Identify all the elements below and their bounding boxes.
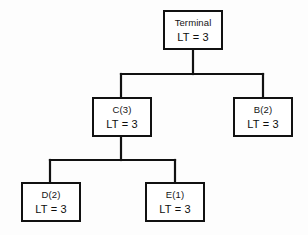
- node-b-lt: LT = 3: [247, 117, 279, 131]
- node-terminal-lt: LT = 3: [177, 30, 209, 44]
- node-d: D(2) LT = 3: [21, 182, 81, 222]
- node-e-lt: LT = 3: [159, 202, 191, 216]
- node-e: E(1) LT = 3: [145, 182, 205, 222]
- node-e-title: E(1): [166, 189, 184, 201]
- node-b-title: B(2): [254, 104, 272, 116]
- node-b: B(2) LT = 3: [233, 97, 293, 137]
- node-c-title: C(3): [113, 104, 132, 116]
- node-d-lt: LT = 3: [35, 202, 67, 216]
- node-d-title: D(2): [42, 189, 61, 201]
- node-terminal-title: Terminal: [175, 17, 212, 29]
- node-c: C(3) LT = 3: [92, 97, 152, 137]
- node-terminal: Terminal LT = 3: [163, 10, 223, 50]
- node-c-lt: LT = 3: [106, 117, 138, 131]
- tree-diagram: Terminal LT = 3 C(3) LT = 3 B(2) LT = 3 …: [0, 0, 308, 235]
